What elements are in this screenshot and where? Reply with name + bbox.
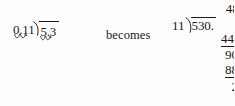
step-remainder-final: 2 [194, 80, 234, 94]
dividend: 530. [192, 18, 214, 33]
vinculum-right [191, 17, 216, 18]
original-division-expression: 0.11 5.3 [13, 20, 56, 40]
division-bracket-left: 5.3 [34, 20, 56, 40]
divisor: 11 [172, 18, 185, 33]
step-subtract-2: 88 [194, 63, 234, 78]
step-remainder-1-value: 90 [225, 47, 234, 62]
division-hook-icon-left [33, 21, 40, 36]
step-remainder-1: 90 [194, 48, 234, 62]
division-bracket-right: 530. [185, 17, 214, 33]
figure-canvas: 0.11 5.3 becomes [0, 0, 234, 106]
original-dividend: 5.3 [40, 24, 56, 39]
step-subtract-1-value: 44 [221, 32, 234, 47]
quotient: 48. [202, 2, 234, 16]
divisor-dividend-row: 11 530. [172, 17, 214, 33]
step-subtract-2-value: 88 [225, 63, 234, 78]
connector-text: becomes [106, 28, 150, 42]
division-hook-icon-right [185, 17, 193, 33]
divisor-group: 0.11 [13, 20, 34, 38]
original-divisor: 0.11 [13, 22, 34, 37]
step-remainder-final-value: 2 [232, 79, 235, 94]
dividend-group: 5.3 [40, 22, 56, 40]
step-subtract-1: 44 [190, 32, 234, 47]
